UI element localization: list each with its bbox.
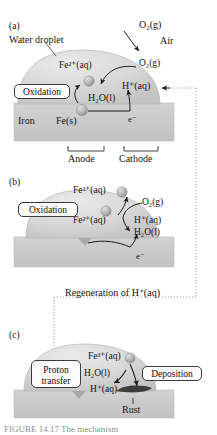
panel-b-o2-label: O₂(g) bbox=[142, 198, 163, 208]
panel-a-tag: (a) bbox=[9, 22, 20, 32]
panel-b-oxidation-callout[interactable]: Oxidation bbox=[18, 202, 78, 217]
panel-c-proton-transfer-callout[interactable]: Proton transfer bbox=[31, 360, 81, 388]
figure-caption: FIGURE 14.17 The mechanism bbox=[4, 424, 214, 435]
regeneration-label: Regeneration of H⁺(aq) bbox=[65, 288, 160, 298]
panel-c-fe3-sphere bbox=[125, 353, 135, 363]
panel-a-oxidation-callout[interactable]: Oxidation bbox=[14, 84, 70, 99]
panel-a-anode-bracket bbox=[68, 146, 104, 151]
panel-a-fe-solid-label: Fe(s) bbox=[56, 116, 77, 126]
panel-b-fe3-label: Fe³⁺(aq) bbox=[73, 186, 106, 196]
panel-c-h-plus-label: H⁺(aq) bbox=[90, 385, 117, 395]
proton-transfer-line-1: Proton bbox=[43, 365, 68, 375]
panel-b-fe3-sphere bbox=[117, 187, 127, 197]
panel-a-cathode-label: Cathode bbox=[119, 154, 152, 164]
panel-a-air-label: Air bbox=[160, 36, 173, 46]
panel-a-o2-dissolved: O₂(g) bbox=[139, 59, 160, 69]
panel-b-electron-label: e⁻ bbox=[136, 252, 145, 261]
panel-c-h2o-label: H₂O(l) bbox=[84, 369, 110, 379]
panel-a-anode-label: Anode bbox=[68, 154, 95, 164]
rusting-mechanism-figure: (a) Water droplet O₂(g) Air O₂(g) Fe²⁺(a… bbox=[0, 0, 217, 435]
panel-a-cathode-bracket bbox=[124, 146, 158, 151]
panel-b-h-plus-label: H⁺(aq) bbox=[134, 216, 161, 226]
panel-a-fe2-label: Fe²⁺(aq) bbox=[59, 61, 92, 71]
panel-c-fe3-label: Fe³⁺(aq) bbox=[88, 352, 121, 362]
panel-a-fe-solid-sphere bbox=[76, 104, 87, 115]
proton-transfer-line-2: transfer bbox=[41, 376, 70, 386]
panel-b-fe2-label: Fe²⁺(aq) bbox=[73, 216, 106, 226]
panel-a-droplet-label: Water droplet bbox=[9, 35, 63, 45]
panel-c-rust-label: Rust bbox=[122, 405, 140, 415]
panel-c-deposition-callout[interactable]: Deposition bbox=[142, 366, 202, 381]
panel-a-h2o-label: H₂O(l) bbox=[88, 93, 115, 103]
panel-a-electron-label: e⁻ bbox=[128, 115, 137, 124]
panel-b-tag: (b) bbox=[9, 178, 20, 188]
panel-a-h-plus-label: H⁺(aq) bbox=[122, 81, 150, 91]
panel-b-h2o-label: H₂O(l) bbox=[134, 228, 160, 238]
panel-a-fe2-sphere bbox=[84, 76, 94, 86]
panel-c-tag: (c) bbox=[9, 331, 20, 341]
panel-a-air-arrow bbox=[124, 31, 139, 51]
panel-a-metal-label: Iron bbox=[18, 116, 35, 126]
panel-a-iron-block bbox=[14, 103, 174, 141]
panel-a-o2-air-label: O₂(g) bbox=[139, 20, 161, 30]
